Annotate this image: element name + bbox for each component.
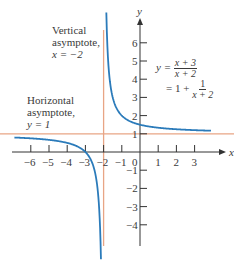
x-tick-label: −5 bbox=[42, 156, 54, 168]
y-axis-label: y bbox=[136, 5, 142, 17]
label-line: x = −2 bbox=[52, 48, 100, 60]
y-tick-label: −4 bbox=[126, 219, 138, 231]
x-tick-label: −6 bbox=[24, 156, 36, 168]
y-tick-label: −2 bbox=[126, 182, 138, 194]
x-tick-label: 3 bbox=[192, 156, 198, 168]
horizontal-asymptote-label: Horizontal asymptote, y = 1 bbox=[27, 94, 75, 130]
y-axis-arrow-icon bbox=[137, 18, 143, 25]
equation-line-2: = 1 + 1 x + 2 bbox=[166, 79, 213, 100]
equation-rhs: = 1 + bbox=[166, 82, 189, 94]
label-line: y = 1 bbox=[27, 118, 75, 130]
vertical-asymptote-label: Vertical asymptote, x = −2 bbox=[52, 24, 100, 60]
equation-lhs: y = bbox=[156, 61, 171, 73]
y-tick-label: 6 bbox=[132, 37, 138, 49]
rational-function-graph: xy−6−5−4−3−2−11230−4−3−2−1123456 bbox=[0, 0, 234, 260]
x-tick-label: −4 bbox=[60, 156, 72, 168]
y-tick-label: 1 bbox=[132, 128, 138, 140]
fraction: x + 3 x + 2 bbox=[174, 58, 197, 79]
x-tick-label: −1 bbox=[115, 156, 127, 168]
denominator: x + 2 bbox=[175, 69, 196, 79]
x-axis-label: x bbox=[228, 146, 234, 158]
y-tick-label: 3 bbox=[132, 91, 138, 103]
label-line: asymptote, bbox=[27, 106, 75, 118]
y-tick-label: 4 bbox=[132, 73, 138, 85]
label-line: Vertical bbox=[52, 24, 100, 36]
label-line: asymptote, bbox=[52, 36, 100, 48]
x-tick-label: −2 bbox=[97, 156, 109, 168]
x-axis-arrow-icon bbox=[219, 149, 226, 155]
y-tick-label: 5 bbox=[132, 55, 138, 67]
x-tick-label: 2 bbox=[173, 156, 179, 168]
equation-line-1: y = x + 3 x + 2 bbox=[156, 58, 197, 79]
denominator: x + 2 bbox=[192, 90, 213, 100]
y-tick-label: −1 bbox=[126, 164, 138, 176]
y-tick-label: 2 bbox=[132, 110, 138, 122]
fraction: 1 x + 2 bbox=[192, 79, 213, 100]
x-tick-label: 1 bbox=[155, 156, 161, 168]
y-tick-label: −3 bbox=[126, 201, 138, 213]
label-line: Horizontal bbox=[27, 94, 75, 106]
